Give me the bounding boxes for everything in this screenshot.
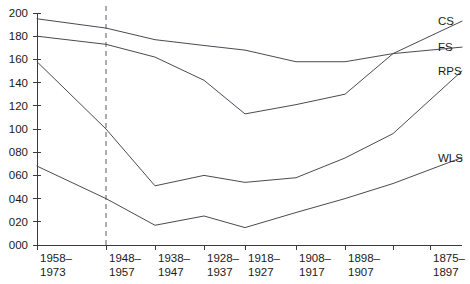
line-chart: 000020040060080100120140160180200 1958–1… — [0, 0, 470, 284]
x-axis-labels: 1958–19731948–19571938–19471928–19371918… — [40, 252, 466, 278]
y-axis-label-000: 000 — [9, 239, 28, 251]
y-axis-label-060: 060 — [9, 169, 28, 181]
x-axis-label-1948-1957-second-line: 1957 — [109, 266, 135, 278]
x-axis-label-1898-1907-second-line: 1907 — [348, 266, 374, 278]
legend-label-FS: FS — [438, 41, 453, 53]
y-axis-label-120: 120 — [9, 100, 28, 112]
x-axis-label-1958-1973-second-line: 1973 — [40, 266, 66, 278]
series-line-WLS — [37, 158, 462, 228]
y-axis-label-200: 200 — [9, 7, 28, 19]
x-axis-label-1958-1973: 1958– — [40, 252, 73, 264]
y-axis-label-140: 140 — [9, 77, 28, 89]
y-axis-label-180: 180 — [9, 30, 28, 42]
series-line-FS — [37, 36, 462, 114]
y-axis-label-100: 100 — [9, 123, 28, 135]
legend-label-CS: CS — [438, 15, 454, 27]
series-line-CS — [37, 19, 462, 62]
series-line-RPS — [37, 62, 462, 186]
x-axis-label-1918-1927: 1918– — [248, 252, 281, 264]
y-axis-label-160: 160 — [9, 53, 28, 65]
legend-label-WLS: WLS — [438, 152, 463, 164]
x-axis-label-1938-1947-second-line: 1947 — [158, 266, 184, 278]
x-axis-label-1875-1897: 1875– — [433, 252, 466, 264]
x-axis-label-1908-1917-second-line: 1917 — [299, 266, 325, 278]
x-axis-label-1908-1917: 1908– — [299, 252, 332, 264]
legend-label-RPS: RPS — [438, 65, 462, 77]
x-axis-label-1948-1957: 1948– — [109, 252, 142, 264]
x-axis-label-1918-1927-second-line: 1927 — [248, 266, 274, 278]
y-axis-label-080: 080 — [9, 146, 28, 158]
x-axis-label-1898-1907: 1898– — [348, 252, 381, 264]
y-axis-label-040: 040 — [9, 193, 28, 205]
chart-canvas: 000020040060080100120140160180200 1958–1… — [0, 0, 470, 284]
y-axis-label-020: 020 — [9, 216, 28, 228]
x-axis-label-1928-1937: 1928– — [207, 252, 240, 264]
series-lines — [37, 19, 462, 228]
x-axis-label-1875-1897-second-line: 1897 — [433, 266, 459, 278]
y-axis-labels: 000020040060080100120140160180200 — [9, 7, 28, 251]
x-axis-label-1938-1947: 1938– — [158, 252, 191, 264]
x-axis-label-1928-1937-second-line: 1937 — [207, 266, 233, 278]
x-axis-ticks — [37, 245, 430, 250]
